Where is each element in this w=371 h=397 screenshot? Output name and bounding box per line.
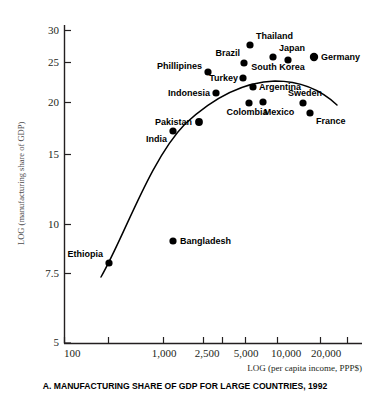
- data-point-ethiopia[interactable]: [105, 259, 112, 266]
- data-label-germany: Germany: [321, 52, 360, 62]
- data-label-thailand: Thailand: [256, 31, 293, 41]
- scatter-chart-figure: 30 25 20 15 10 7.5 5 100 1,000 2,500 5,0…: [0, 0, 371, 397]
- data-label-colombia: Colombia: [226, 107, 268, 117]
- data-label-ethiopia: Ethiopia: [68, 249, 104, 259]
- y-tick-label-30: 30: [48, 24, 60, 36]
- y-tick-label-15: 15: [48, 148, 60, 160]
- y-tick-label-10: 10: [48, 218, 60, 230]
- x-tick-label-2500: 2,500: [195, 347, 220, 359]
- x-tick-label-1000: 1,000: [152, 347, 177, 359]
- y-tick-label-5: 5: [54, 336, 60, 348]
- data-point-india[interactable]: [169, 127, 176, 134]
- data-label-india: India: [146, 134, 168, 144]
- data-label-mexico: Mexico: [264, 107, 295, 117]
- y-tick-label-20: 20: [48, 96, 60, 108]
- x-tick-label-10000: 10,000: [271, 347, 302, 359]
- data-point-colombia[interactable]: [245, 99, 252, 106]
- x-tick-label-5000: 5,000: [234, 347, 259, 359]
- x-axis-ticks: [65, 337, 348, 343]
- y-axis-tick-labels: 30 25 20 15 10 7.5 5: [45, 24, 59, 348]
- data-label-france: France: [316, 116, 346, 126]
- data-point-indonesia[interactable]: [212, 89, 219, 96]
- data-point-argentina[interactable]: [249, 83, 256, 90]
- data-point-germany[interactable]: [310, 53, 318, 61]
- data-label-bangladesh: Bangladesh: [180, 236, 231, 246]
- data-label-south-korea: South Korea: [251, 62, 305, 72]
- data-point-mexico[interactable]: [259, 98, 266, 105]
- data-label-japan: Japan: [279, 43, 305, 53]
- data-point-sweden[interactable]: [299, 99, 306, 106]
- x-tick-label-100: 100: [64, 347, 81, 359]
- data-point-france[interactable]: [306, 109, 313, 116]
- data-point-brazil[interactable]: [240, 59, 247, 66]
- data-label-brazil: Brazil: [215, 48, 240, 58]
- data-label-sweden: Sweden: [288, 88, 322, 98]
- y-tick-label-7-5: 7.5: [45, 267, 59, 279]
- data-label-indonesia: Indonesia: [168, 88, 211, 98]
- data-label-phillipines: Phillipines: [157, 61, 202, 71]
- data-point-bangladesh[interactable]: [169, 237, 176, 244]
- data-point-thailand[interactable]: [246, 41, 253, 48]
- x-axis-tick-labels: 100 1,000 2,500 5,000 10,000 20,000: [64, 347, 342, 359]
- data-label-pakistan: Pakistan: [155, 117, 192, 127]
- x-axis-title: LOG (per capita income, PPP$): [247, 363, 362, 373]
- data-point-south-korea[interactable]: [269, 53, 276, 60]
- y-axis-title: LOG (manufacturing share of GDP): [16, 122, 26, 245]
- chart-svg: 30 25 20 15 10 7.5 5 100 1,000 2,500 5,0…: [0, 0, 371, 397]
- x-tick-label-20000: 20,000: [311, 347, 342, 359]
- data-point-pakistan[interactable]: [195, 118, 203, 126]
- data-point-labels-group: Ethiopia Bangladesh India Pakistan Phill…: [68, 31, 361, 259]
- data-label-turkey: Turkey: [209, 73, 238, 83]
- y-axis-ticks: [65, 31, 71, 344]
- data-point-turkey[interactable]: [239, 74, 246, 81]
- fitted-trend-curve: [101, 81, 337, 277]
- figure-caption: A. MANUFACTURING SHARE OF GDP FOR LARGE …: [43, 381, 328, 391]
- y-tick-label-25: 25: [48, 56, 60, 68]
